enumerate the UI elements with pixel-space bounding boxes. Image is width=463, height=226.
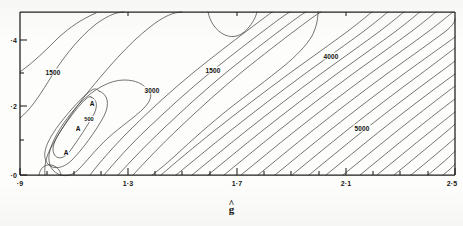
contour-plot: ·9 1·3 1·7 2·1 2·5 ·4 ·2 ·0 1500 3000 15… xyxy=(0,0,463,226)
y-tick-label-1: ·2 xyxy=(2,103,17,110)
figure-canvas: ·9 1·3 1·7 2·1 2·5 ·4 ·2 ·0 1500 3000 15… xyxy=(0,0,463,226)
x-tick-label-3: 2·1 xyxy=(341,180,352,187)
marker-a-3: A xyxy=(63,149,69,156)
marker-a-1: A xyxy=(89,100,95,107)
contour-label-1500-left: 1500 xyxy=(45,69,62,76)
y-tick-label-0: ·4 xyxy=(2,37,17,44)
contour-lines-svg xyxy=(0,0,463,226)
contour-label-5000: 5000 xyxy=(354,125,371,132)
x-axis-title: ^ g xyxy=(0,203,463,215)
circumflex-accent-icon: ^ xyxy=(229,199,235,209)
marker-a-2: A xyxy=(75,125,81,132)
contour-label-1500-mid: 1500 xyxy=(205,67,222,74)
x-tick-label-1: 1·3 xyxy=(123,180,134,187)
y-tick-label-2: ·0 xyxy=(2,172,17,179)
x-tick-label-0: ·9 xyxy=(17,180,24,187)
contour-label-3000: 3000 xyxy=(144,87,161,94)
contour-label-500: 500 xyxy=(83,116,95,122)
x-tick-label-2: 1·7 xyxy=(232,180,243,187)
x-tick-label-4: 2·5 xyxy=(447,180,458,187)
contour-label-4000: 4000 xyxy=(323,53,340,60)
